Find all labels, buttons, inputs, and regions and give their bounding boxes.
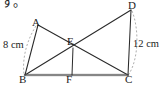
vertex-label-A: A [32,17,40,28]
geometry-figure: す。 A D E B F C 8 cm 12 cm [0,0,168,88]
segment-A-B [25,25,38,75]
segment-E-F [72,48,73,75]
dashed-arc-left [24,26,36,74]
vertex-label-E: E [67,36,74,47]
segment-B-D [25,10,131,75]
segment-D-C [128,10,131,75]
measure-label-right: 12 cm [133,38,159,49]
vertex-label-B: B [19,74,26,85]
segment-A-C [38,25,128,75]
vertex-label-F: F [66,74,72,85]
vertex-label-D: D [128,0,136,11]
vertex-label-C: C [125,74,132,85]
measure-label-left: 8 cm [3,39,24,50]
